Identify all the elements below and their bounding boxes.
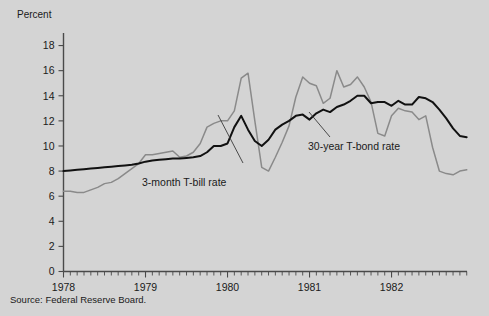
y-tick-label: 8 [49, 165, 55, 177]
x-year-label: 1978 [52, 281, 76, 293]
y-tick-label: 14 [43, 90, 55, 102]
y-tick-label: 2 [49, 240, 55, 252]
source-note: Source: Federal Reserve Board. [10, 294, 146, 305]
x-year-label: 1981 [298, 281, 322, 293]
chart-background [0, 0, 489, 316]
tbill-annotation-label: 3-month T-bill rate [142, 176, 227, 188]
x-year-label: 1980 [216, 281, 240, 293]
y-tick-label: 4 [49, 215, 55, 227]
x-year-label: 1982 [380, 281, 404, 293]
y-tick-label: 10 [43, 140, 55, 152]
y-tick-label: 12 [43, 115, 55, 127]
y-tick-label: 16 [43, 64, 55, 76]
interest-rate-line-chart: Percent 024681012141618 1978197919801981… [0, 0, 489, 316]
y-axis-title: Percent [17, 9, 52, 20]
x-year-label: 1979 [134, 281, 158, 293]
y-tick-label: 0 [49, 265, 55, 277]
y-tick-label: 18 [43, 39, 55, 51]
tbond-annotation-label: 30-year T-bond rate [308, 140, 400, 152]
y-tick-label: 6 [49, 190, 55, 202]
